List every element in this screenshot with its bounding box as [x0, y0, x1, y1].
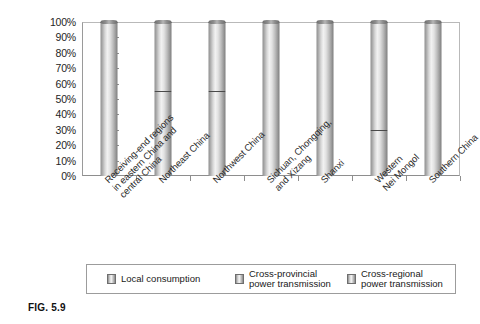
bar-segment — [155, 22, 172, 91]
stacked-bar — [425, 22, 442, 176]
y-tick-label: 80% — [56, 48, 76, 58]
bar-segment — [209, 91, 226, 109]
stacked-bar — [263, 22, 280, 176]
bar-top-cap-icon — [317, 20, 334, 24]
bar-top-cap-icon — [263, 20, 280, 24]
legend-item: Cross-provincial power transmission — [235, 265, 331, 293]
bar-top-cap-icon — [155, 20, 172, 24]
y-tick-label: 20% — [56, 140, 76, 150]
bar-segment — [371, 22, 388, 130]
legend-label: Local consumption — [121, 274, 200, 285]
bar-segment — [209, 22, 226, 91]
y-tick-label: 30% — [56, 125, 76, 135]
y-tick-label: 0% — [61, 171, 76, 181]
legend-item: Cross-regional power transmission — [347, 265, 443, 293]
legend-label: Cross-provincial power transmission — [249, 269, 331, 290]
figure-caption: FIG. 5.9 — [28, 302, 66, 313]
stacked-bar — [101, 22, 118, 176]
bar-top-cap-icon — [425, 20, 442, 24]
y-tick-label: 90% — [56, 32, 76, 42]
legend: Local consumptionCross-provincial power … — [86, 264, 456, 294]
stacked-bar — [371, 22, 388, 176]
x-axis-labels: Receiving-end regions in eastern China a… — [82, 178, 460, 258]
bar-segment — [425, 22, 442, 176]
y-tick-label: 60% — [56, 79, 76, 89]
legend-swatch-icon — [107, 274, 116, 284]
bar-segment — [101, 22, 118, 96]
legend-swatch-icon — [235, 274, 244, 284]
x-tick-mark — [460, 176, 461, 181]
y-axis: 100%90%80%70%60%50%40%30%20%10%0% — [38, 22, 80, 176]
bar-top-cap-icon — [371, 20, 388, 24]
bar-segment — [263, 22, 280, 176]
legend-item: Local consumption — [107, 265, 200, 293]
bar-segment — [155, 91, 172, 108]
bar-segment — [371, 130, 388, 138]
y-tick-label: 50% — [56, 94, 76, 104]
bar-top-cap-icon — [101, 20, 118, 24]
y-tick-label: 10% — [56, 156, 76, 166]
stacked-bar — [209, 22, 226, 176]
bar-top-cap-icon — [209, 20, 226, 24]
legend-swatch-icon — [347, 274, 356, 284]
y-tick-label: 100% — [50, 17, 76, 27]
y-tick-label: 40% — [56, 109, 76, 119]
legend-label: Cross-regional power transmission — [361, 269, 443, 290]
y-tick-label: 70% — [56, 63, 76, 73]
